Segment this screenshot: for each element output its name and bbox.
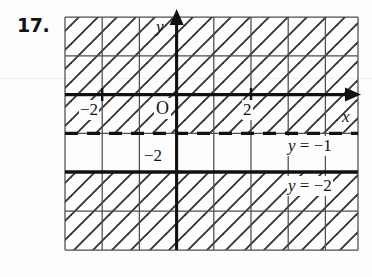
label-y-equals-negative-1: y = −1: [287, 136, 333, 156]
x-tick-label-negative-2: −2: [79, 100, 99, 120]
y-axis-label: y: [156, 17, 164, 37]
label-y1-var: y: [288, 136, 296, 155]
label-y1-eq: =: [296, 136, 314, 155]
label-y1-value: −1: [314, 136, 332, 155]
coordinate-graph: x y O −2 2 −2 y = −1 y = −2: [65, 17, 358, 250]
graph-svg: [53, 5, 372, 265]
label-y2-value: −2: [314, 176, 332, 195]
origin-label: O: [154, 98, 171, 119]
problem-number: 17.: [17, 14, 49, 36]
x-axis-label: x: [342, 107, 350, 127]
figure-root: 17.: [0, 0, 372, 277]
label-y2-var: y: [288, 176, 296, 195]
x-tick-label-2: 2: [242, 100, 253, 120]
label-y2-eq: =: [296, 176, 314, 195]
label-y-equals-negative-2: y = −2: [287, 176, 333, 196]
hatch-region-above: [65, 17, 358, 133]
y-tick-label-negative-2: −2: [143, 146, 163, 166]
